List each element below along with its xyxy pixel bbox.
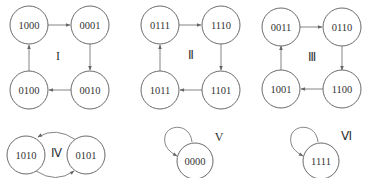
- cycle-1: 1000 0001 0010 0100 I: [10, 6, 109, 109]
- svg-text:0110: 0110: [332, 22, 353, 33]
- cycle-label-6: Ⅵ: [341, 129, 352, 143]
- state-0111: 0111: [141, 6, 179, 44]
- svg-text:1011: 1011: [150, 85, 171, 96]
- cycle-label-4: Ⅳ: [51, 146, 62, 160]
- state-0101: 0101: [67, 136, 105, 174]
- svg-text:0011: 0011: [271, 22, 292, 33]
- cycle-label-5: V: [215, 130, 224, 144]
- svg-text:1101: 1101: [211, 85, 232, 96]
- svg-text:0000: 0000: [185, 156, 206, 167]
- state-0110: 0110: [323, 8, 361, 46]
- svg-text:0101: 0101: [76, 150, 97, 161]
- state-0010: 0010: [71, 71, 109, 109]
- state-0000: 0000: [177, 143, 213, 178]
- svg-text:0010: 0010: [80, 85, 101, 96]
- state-1100: 1100: [323, 70, 361, 108]
- cycle-2: 0111 1110 1101 1011 Ⅱ: [141, 6, 240, 109]
- edge-0101-1010: [38, 132, 76, 140]
- state-0011: 0011: [262, 8, 300, 46]
- svg-text:0001: 0001: [80, 20, 101, 31]
- cycle-label-1: I: [56, 49, 60, 63]
- edge-1010-0101: [36, 171, 74, 178]
- svg-text:1100: 1100: [332, 84, 353, 95]
- state-1000: 1000: [10, 6, 48, 44]
- svg-text:1010: 1010: [16, 150, 37, 161]
- cycle-6: 1111 Ⅵ: [291, 127, 352, 178]
- state-1011: 1011: [141, 71, 179, 109]
- svg-text:1001: 1001: [271, 84, 292, 95]
- state-1010: 1010: [7, 136, 45, 174]
- svg-text:1000: 1000: [19, 20, 40, 31]
- cycle-5: 0000 V: [165, 127, 224, 178]
- state-0001: 0001: [71, 6, 109, 44]
- svg-text:0111: 0111: [150, 20, 170, 31]
- state-1110: 1110: [202, 6, 240, 44]
- cycle-3: 0011 0110 1100 1001 Ⅲ: [262, 8, 361, 108]
- state-1001: 1001: [262, 70, 300, 108]
- cycle-label-2: Ⅱ: [188, 48, 194, 62]
- state-1101: 1101: [202, 71, 240, 109]
- svg-text:1110: 1110: [211, 20, 231, 31]
- svg-text:1111: 1111: [311, 156, 331, 167]
- svg-text:0100: 0100: [19, 85, 40, 96]
- state-diagram: 1000 0001 0010 0100 I 0111 1110 1101 101…: [0, 0, 378, 178]
- cycle-label-3: Ⅲ: [308, 50, 316, 64]
- cycle-4: 1010 0101 Ⅳ: [7, 132, 105, 177]
- state-1111: 1111: [303, 143, 339, 178]
- state-0100: 0100: [10, 71, 48, 109]
